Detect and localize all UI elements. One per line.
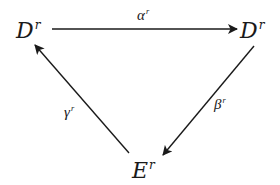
- arrow-gamma: [35, 45, 129, 153]
- edge-label-gamma: γr: [64, 105, 74, 122]
- node-d-right-superscript: r: [259, 18, 265, 32]
- node-d-left-superscript: r: [35, 18, 41, 32]
- node-e-bottom: Er: [132, 160, 155, 185]
- edge-label-alpha-base: α: [137, 7, 145, 23]
- node-d-right: Dr: [240, 20, 264, 45]
- node-d-left-base: D: [16, 18, 34, 43]
- node-e-superscript: r: [149, 158, 155, 172]
- arrow-beta: [163, 46, 254, 155]
- commutative-diagram: Dr Dr Er αr βr γr: [0, 0, 280, 185]
- edge-label-beta-base: β: [214, 96, 221, 112]
- edge-label-alpha: αr: [137, 8, 149, 25]
- node-d-right-base: D: [240, 18, 258, 43]
- node-d-left: Dr: [16, 20, 40, 45]
- node-e-base: E: [132, 158, 148, 183]
- edge-label-gamma-base: γ: [64, 104, 70, 120]
- edge-label-alpha-superscript: r: [146, 7, 149, 16]
- edge-label-gamma-superscript: r: [71, 104, 74, 113]
- edge-label-beta: βr: [214, 97, 226, 114]
- edge-label-beta-superscript: r: [222, 96, 225, 105]
